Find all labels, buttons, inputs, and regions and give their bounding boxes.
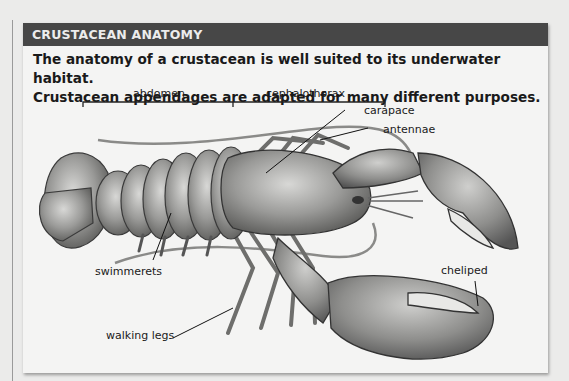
cephalothorax-bracket (233, 102, 385, 107)
label-carapace: carapace (364, 104, 415, 117)
label-cephalothorax: cephalothorax (266, 87, 345, 100)
label-antennae: antennae (383, 123, 435, 136)
label-walking-legs: walking legs (106, 329, 174, 342)
lobster-illustration (23, 23, 548, 373)
label-cheliped: cheliped (441, 264, 488, 277)
page-margin-line (12, 20, 13, 381)
figure-panel: CRUSTACEAN ANATOMY The anatomy of a crus… (23, 23, 548, 373)
label-swimmerets: swimmerets (95, 265, 162, 278)
abdomen-bracket (83, 102, 233, 107)
label-abdomen: abdomen (133, 87, 185, 100)
